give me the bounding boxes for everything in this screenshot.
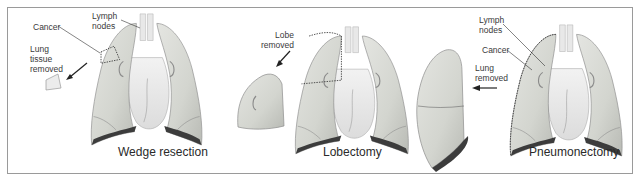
title-lobectomy: Lobectomy bbox=[323, 145, 382, 159]
removed-wedge-tissue bbox=[46, 74, 61, 90]
wedge-resection-lungs bbox=[91, 14, 202, 145]
label-lymph-nodes-wedge: Lymph nodes bbox=[92, 11, 117, 31]
label-lymph-nodes-pneumonectomy: Lymph nodes bbox=[479, 15, 504, 35]
label-lung-tissue-removed: Lung tissue removed bbox=[30, 44, 63, 74]
label-cancer-pneumonectomy: Cancer bbox=[482, 45, 509, 55]
label-cancer-wedge: Cancer bbox=[33, 22, 60, 32]
label-lobe-removed: Lobe removed bbox=[258, 30, 294, 50]
lobectomy-lungs bbox=[295, 27, 408, 154]
removed-lobe bbox=[238, 74, 284, 129]
pneumonectomy-lungs bbox=[510, 25, 622, 156]
title-pneumonectomy: Pneumonectomy bbox=[529, 145, 619, 159]
label-lung-removed: Lung removed bbox=[475, 63, 508, 83]
title-wedge-resection: Wedge resection bbox=[118, 145, 208, 159]
